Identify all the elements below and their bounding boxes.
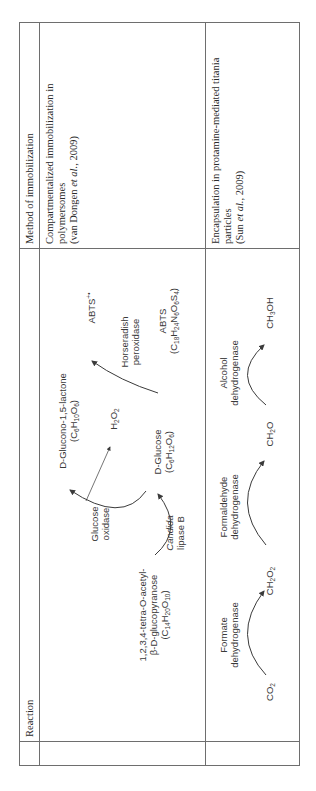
arc-formate-dh [247,591,266,675]
species-ch3oh: CH3OH [264,290,275,336]
species-ch2o2: CH2O2 [264,561,275,601]
species-ch2o: CH2O [264,417,275,451]
dye-abts-oxidized: ABTS+• [86,285,97,331]
product-gluconolactone: D-Glucono-1,5-lactone (C6H10O6) [57,369,79,473]
enzyme-candida-lipase: Candida lipase B [164,511,186,555]
enzyme-formaldehyde-dehydrogenase: Formaldehyde dehydrogenase [218,467,240,547]
lactone-formula: (C6H10O6) [68,369,79,473]
enzyme-glucose-oxidase: Glucose oxidase [89,502,111,546]
arc-formaldehyde-dh [247,461,266,545]
glucose-formula: (C6H12O6) [163,421,174,483]
dye-abts: ABTS (C18H24N6O6S4) [157,269,179,373]
abts-formula: (C18H24N6O6S4) [168,269,179,373]
reaction-diagram-arrows [0,0,316,791]
rotated-table-page: Reaction Method of immobilization Compar… [0,0,316,791]
species-co2: CO2 [264,681,275,703]
enzyme-horseradish-peroxidase: Horseradish peroxidase [119,311,141,373]
enzyme-alcohol-dehydrogenase: Alcohol dehydrogenase [218,335,240,411]
arrow-h2o2 [86,447,110,501]
arc-alcohol-dh [247,345,266,405]
intermediate-glucose: D-Glucose (C6H12O6) [152,421,174,483]
substrate-formula: (C14H20O10) [159,560,170,670]
enzyme-formate-dehydrogenase: Formate dehydrogenase [218,597,240,673]
byproduct-h2o2: H2O2 [108,397,119,441]
substrate-label: 1,2,3,4-tetra-O-acetyl- β-D-glucopyranos… [137,560,170,670]
